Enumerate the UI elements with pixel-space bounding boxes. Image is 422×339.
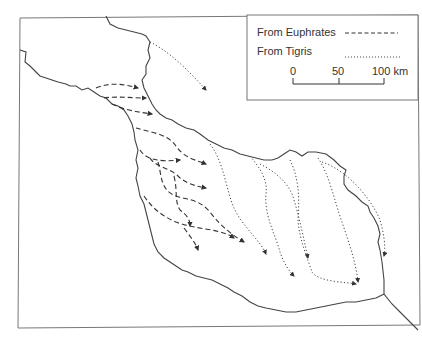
tigris-flow (260, 164, 308, 258)
tigris-flow (290, 160, 356, 284)
legend-label-tigris: From Tigris (257, 45, 312, 57)
euphrates-flow (104, 97, 146, 98)
euphrates-flow (184, 228, 198, 250)
tigris-flow (210, 144, 266, 254)
euphrates-flow (174, 176, 190, 226)
tigris-flow (150, 42, 206, 90)
scale-tick-100: 100 km (372, 65, 408, 77)
legend-label-euphrates: From Euphrates (257, 26, 336, 38)
euphrates-flow (144, 196, 234, 238)
tigris-flow (318, 158, 358, 282)
euphrates-flow (140, 150, 180, 161)
euphrates-flows (96, 84, 244, 250)
map-canvas (0, 0, 422, 339)
euphrates-flow (158, 162, 244, 242)
euphrates-flow (96, 84, 138, 88)
tigris-flow (250, 156, 294, 276)
scale-tick-50: 50 (332, 65, 344, 77)
tigris-flow (322, 162, 385, 256)
euphrates-flow (136, 128, 206, 164)
scale-tick-0: 0 (290, 65, 296, 77)
